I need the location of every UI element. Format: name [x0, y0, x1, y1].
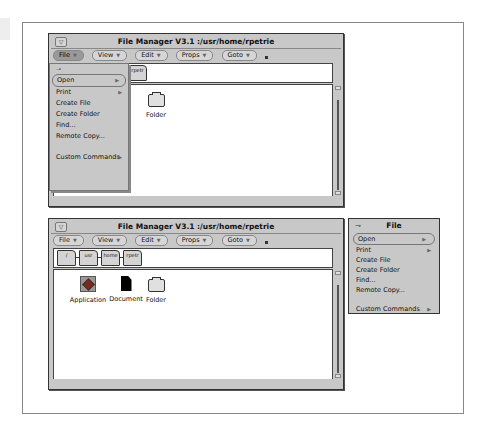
- path-node-usr[interactable]: usr: [79, 250, 98, 266]
- menu-label: Props: [182, 51, 200, 59]
- title-bar[interactable]: ▽ File Manager V3.1 :/usr/home/rpetrie: [51, 221, 341, 234]
- menu-triangle-icon: ▼: [246, 237, 250, 243]
- menu-props[interactable]: Props▼: [176, 235, 214, 246]
- file-manager-window-bottom: ▽ File Manager V3.1 :/usr/home/rpetrie F…: [48, 218, 344, 390]
- application-icon: [80, 276, 96, 292]
- menu-item-label: Print: [56, 88, 71, 96]
- menu-edit[interactable]: Edit▼: [135, 50, 167, 61]
- submenu-arrow-icon: ▶: [427, 304, 431, 314]
- status-bar: [51, 196, 341, 204]
- pinned-menu-title: File: [386, 221, 401, 230]
- menu-spacer: [349, 295, 439, 304]
- menu-item-remote-copy[interactable]: Remote Copy...: [50, 131, 128, 142]
- menu-item-find[interactable]: Find...: [349, 275, 439, 285]
- window-title: File Manager V3.1 :/usr/home/rpetrie: [51, 36, 341, 48]
- scroll-down-cap[interactable]: [335, 374, 341, 378]
- path-node-rpetr[interactable]: rpetr: [123, 250, 142, 266]
- menu-item-find[interactable]: Find...: [50, 120, 128, 131]
- menu-item-open[interactable]: Open▶: [52, 74, 126, 87]
- menu-props[interactable]: Props▼: [176, 50, 214, 61]
- busy-indicator: [265, 241, 268, 244]
- menu-triangle-icon: ▼: [116, 52, 120, 58]
- vertical-scrollbar[interactable]: [335, 269, 341, 379]
- busy-indicator: [265, 56, 268, 59]
- menu-edit[interactable]: Edit▼: [135, 235, 167, 246]
- menu-goto[interactable]: Goto▼: [222, 50, 257, 61]
- submenu-arrow-icon: ▶: [118, 87, 122, 98]
- menu-bar: File▼ View▼ Edit▼ Props▼ Goto▼: [53, 49, 339, 61]
- submenu-arrow-icon: ▶: [115, 75, 119, 86]
- menu-file[interactable]: File▼: [53, 50, 84, 61]
- status-bar: [51, 379, 341, 387]
- menu-item-create-file[interactable]: Create File: [50, 98, 128, 109]
- folder-icon: [148, 94, 165, 107]
- submenu-arrow-icon: ▶: [118, 152, 122, 163]
- menu-triangle-icon: ▼: [73, 52, 77, 58]
- path-pane: / usr home rpetr: [53, 248, 333, 268]
- menu-label: View: [98, 236, 113, 244]
- menu-file[interactable]: File▼: [53, 235, 84, 246]
- pushpin-icon[interactable]: ⊸: [355, 219, 361, 233]
- menu-label: Edit: [141, 236, 154, 244]
- menu-spacer: [50, 142, 128, 152]
- menu-label: Goto: [228, 236, 244, 244]
- pinned-menu-header: ⊸ File: [349, 219, 439, 233]
- menu-triangle-icon: ▼: [203, 52, 207, 58]
- document-icon: [121, 276, 132, 291]
- menu-view[interactable]: View▼: [92, 235, 127, 246]
- scroll-up-cap[interactable]: [335, 86, 341, 90]
- scroll-down-cap[interactable]: [335, 191, 341, 195]
- window-title: File Manager V3.1 :/usr/home/rpetrie: [51, 221, 341, 233]
- menu-triangle-icon: ▼: [116, 237, 120, 243]
- file-label: Folder: [136, 296, 176, 304]
- menu-item-label: Open: [358, 235, 375, 243]
- menu-view[interactable]: View▼: [92, 50, 127, 61]
- menu-item-create-file[interactable]: Create File: [349, 255, 439, 265]
- menu-label: Goto: [228, 51, 244, 59]
- menu-triangle-icon: ▼: [203, 237, 207, 243]
- menu-item-create-folder[interactable]: Create Folder: [349, 265, 439, 275]
- menu-goto[interactable]: Goto▼: [222, 235, 257, 246]
- path-node-rpetr[interactable]: rpetr: [128, 65, 147, 81]
- vertical-scrollbar[interactable]: [335, 84, 341, 196]
- menu-item-remote-copy[interactable]: Remote Copy...: [349, 285, 439, 295]
- file-dropdown-menu: ⊸ Open▶ Print▶ Create File Create Folder…: [49, 63, 129, 191]
- menu-item-print[interactable]: Print▶: [349, 245, 439, 255]
- menu-item-label: Print: [356, 246, 371, 254]
- file-label: Folder: [136, 111, 176, 119]
- menu-triangle-icon: ▼: [157, 237, 161, 243]
- file-item-folder[interactable]: Folder: [136, 276, 176, 304]
- menu-label: View: [98, 51, 113, 59]
- menu-item-label: Open: [57, 76, 74, 84]
- path-node-root[interactable]: /: [57, 250, 76, 266]
- menu-item-print[interactable]: Print▶: [50, 87, 128, 98]
- submenu-arrow-icon: ▶: [427, 245, 431, 255]
- file-label: Application: [68, 296, 108, 304]
- menu-triangle-icon: ▼: [73, 237, 77, 243]
- menu-item-open[interactable]: Open▶: [353, 233, 435, 245]
- file-item-application[interactable]: Application: [68, 276, 108, 304]
- menu-label: File: [59, 236, 70, 244]
- path-node-home[interactable]: home: [101, 250, 120, 266]
- menu-triangle-icon: ▼: [246, 52, 250, 58]
- file-item-folder[interactable]: Folder: [136, 91, 176, 119]
- menu-item-label: Custom Commands: [356, 305, 420, 313]
- menu-bar: File▼ View▼ Edit▼ Props▼ Goto▼: [53, 234, 339, 246]
- menu-item-custom-commands[interactable]: Custom Commands▶: [349, 304, 439, 314]
- menu-item-custom-commands[interactable]: Custom Commands▶: [50, 152, 128, 163]
- menu-label: File: [59, 51, 70, 59]
- submenu-arrow-icon: ▶: [422, 234, 426, 244]
- scroll-track[interactable]: [337, 100, 339, 190]
- title-bar[interactable]: ▽ File Manager V3.1 :/usr/home/rpetrie: [51, 36, 341, 49]
- menu-label: Props: [182, 236, 200, 244]
- menu-triangle-icon: ▼: [157, 52, 161, 58]
- scroll-track[interactable]: [337, 285, 339, 373]
- pinned-file-menu: ⊸ File Open▶ Print▶ Create File Create F…: [348, 218, 440, 314]
- content-pane: Application Document Folder: [53, 269, 333, 381]
- menu-label: Edit: [141, 51, 154, 59]
- scroll-up-cap[interactable]: [335, 271, 341, 275]
- folder-icon: [148, 279, 165, 292]
- menu-item-create-folder[interactable]: Create Folder: [50, 109, 128, 120]
- pushpin-icon[interactable]: ⊸: [50, 64, 128, 74]
- side-tab: [0, 18, 10, 40]
